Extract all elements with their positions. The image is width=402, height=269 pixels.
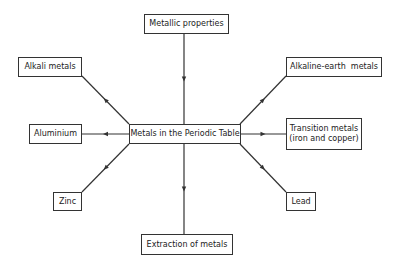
- arrowhead-icon: [182, 77, 186, 82]
- center-label: Metals in the Periodic Table: [130, 129, 239, 139]
- node-metallic-properties: Metallic properties: [144, 14, 229, 34]
- node-metals-in-periodic-table: Metals in the Periodic Table: [129, 124, 241, 144]
- node-label: Extraction of metals: [147, 240, 228, 250]
- node-aluminium: Aluminium: [29, 124, 82, 144]
- node-label: Transition metals: [290, 124, 358, 134]
- node-label: Lead: [291, 197, 310, 207]
- node-transition-metals: Transition metals (iron and copper): [286, 118, 362, 150]
- node-label: Aluminium: [34, 129, 77, 139]
- node-label: Alkaline-earth metals: [290, 62, 378, 72]
- node-alkaline-earth-metals: Alkaline-earth metals: [286, 57, 382, 77]
- arrowhead-icon: [182, 187, 186, 192]
- node-label: Zinc: [59, 197, 76, 207]
- node-label: Metallic properties: [149, 19, 223, 29]
- node-extraction-of-metals: Extraction of metals: [141, 234, 233, 255]
- node-sublabel: (iron and copper): [289, 134, 358, 144]
- node-lead: Lead: [286, 192, 316, 211]
- arrowhead-icon: [261, 132, 266, 136]
- node-label: Alkali metals: [24, 62, 75, 72]
- arrowhead-icon: [103, 132, 108, 136]
- node-alkali-metals: Alkali metals: [18, 57, 82, 77]
- node-zinc: Zinc: [53, 192, 82, 211]
